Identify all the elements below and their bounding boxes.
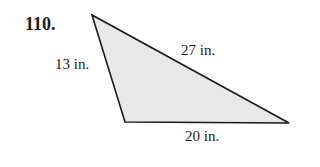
side-label-hypotenuse: 27 in. bbox=[181, 42, 215, 59]
problem-number: 110. bbox=[25, 14, 56, 35]
side-label-left: 13 in. bbox=[55, 56, 89, 73]
side-label-bottom: 20 in. bbox=[185, 128, 219, 145]
triangle-shape bbox=[92, 15, 289, 123]
